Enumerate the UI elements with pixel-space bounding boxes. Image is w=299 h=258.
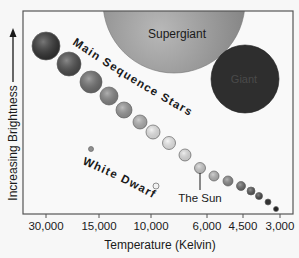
main-sequence-star-shading (256, 193, 263, 200)
x-axis-tick-labels: 30,00015,00010,0006,0004,5003,000 (28, 220, 294, 232)
white-dwarf-star (89, 147, 94, 152)
main-sequence-star-shading (179, 149, 191, 161)
x-tick-label: 10,000 (133, 220, 168, 232)
main-sequence-star-shading (146, 125, 160, 139)
x-tick-label: 30,000 (28, 220, 63, 232)
main-sequence-star-shading (163, 137, 176, 150)
main-sequence-star-shading (32, 32, 60, 60)
main-sequence-star-shading (195, 163, 206, 174)
main-sequence-star (274, 207, 279, 212)
main-sequence-star-shading (237, 182, 246, 191)
x-axis-ticks (46, 214, 280, 218)
sun-label: The Sun (178, 192, 221, 204)
arrow-up-icon (10, 28, 17, 82)
x-tick-label: 15,000 (81, 220, 116, 232)
main-sequence-star-shading (57, 52, 81, 76)
giant-label: Giant (231, 73, 257, 85)
main-sequence-star-shading (209, 171, 219, 181)
main-sequence-star-shading (133, 115, 147, 129)
main-sequence-star-shading (80, 71, 102, 93)
main-sequence-star-shading (116, 102, 132, 118)
x-tick-label: 4,500 (229, 220, 258, 232)
x-tick-label: 3,000 (266, 220, 295, 232)
main-sequence-star-shading (223, 176, 233, 186)
main-sequence-star (265, 199, 271, 205)
x-axis-label: Temperature (Kelvin) (104, 238, 215, 252)
y-axis-label: Increasing Brightness (6, 85, 20, 200)
hr-diagram: Supergiant Giant Main Sequence Stars Whi… (0, 0, 299, 258)
x-tick-label: 6,000 (193, 220, 222, 232)
main-sequence-star-shading (247, 187, 255, 195)
supergiant-label: Supergiant (148, 27, 207, 41)
main-sequence-star-shading (100, 87, 118, 105)
